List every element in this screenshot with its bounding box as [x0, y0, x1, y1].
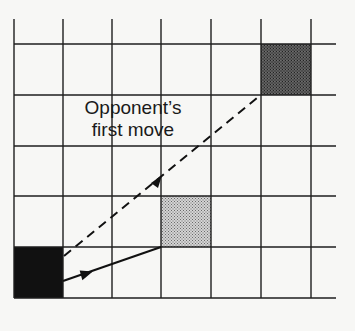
label-line-1: Opponent’s [74, 97, 192, 119]
opponent-target-square [261, 44, 311, 95]
game-board [0, 0, 355, 331]
label-line-2: first move [74, 119, 192, 141]
player-target-square [161, 196, 211, 247]
player-piece-square [14, 247, 63, 298]
opponent-move-label: Opponent’s first move [74, 97, 192, 141]
